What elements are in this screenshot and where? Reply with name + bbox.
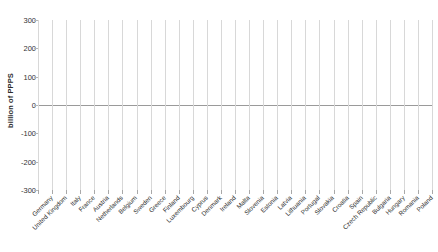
vertical-gridline (38, 20, 39, 190)
vertical-gridline (348, 20, 349, 190)
vertical-gridline (277, 20, 278, 190)
vertical-gridline (319, 20, 320, 190)
vertical-gridline (235, 20, 236, 190)
vertical-gridline (179, 20, 180, 190)
vertical-gridline (94, 20, 95, 190)
vertical-gridline (334, 20, 335, 190)
x-tick-mark (432, 190, 433, 194)
y-axis-tick-labels: 3002001000-100-200-300 (14, 20, 36, 190)
vertical-gridline (263, 20, 264, 190)
vertical-gridline (291, 20, 292, 190)
vertical-gridline (52, 20, 53, 190)
x-axis-category-labels: GermanyUnited KingdomItalyFranceAustriaN… (38, 194, 432, 252)
bar-chart: billion of PPPS 3002001000-100-200-300 G… (0, 0, 438, 252)
vertical-gridline (376, 20, 377, 190)
vertical-gridline (122, 20, 123, 190)
vertical-gridline (418, 20, 419, 190)
vertical-gridline (362, 20, 363, 190)
vertical-gridline (165, 20, 166, 190)
vertical-gridline (193, 20, 194, 190)
vertical-gridline (108, 20, 109, 190)
vertical-gridline (137, 20, 138, 190)
vertical-gridline (305, 20, 306, 190)
vertical-gridline (207, 20, 208, 190)
vertical-gridline (80, 20, 81, 190)
vertical-gridline (249, 20, 250, 190)
vertical-gridline (221, 20, 222, 190)
vertical-gridline (404, 20, 405, 190)
plot-area (38, 20, 432, 190)
vertical-gridline (432, 20, 433, 190)
vertical-gridline (390, 20, 391, 190)
vertical-gridline (66, 20, 67, 190)
vertical-gridline (151, 20, 152, 190)
